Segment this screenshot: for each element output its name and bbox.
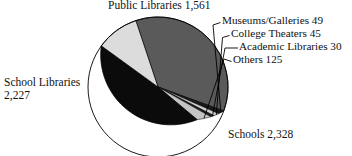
- pie-slices: [101, 17, 228, 125]
- pie-label-schools: Schools 2,328: [228, 128, 293, 141]
- pie-label-others: Others 125: [233, 53, 282, 66]
- pie-label-school-libraries-name: School Libraries: [4, 76, 99, 89]
- pie-label-college-theaters: College Theaters 45: [231, 27, 321, 40]
- pie-label-museums-galleries: Museums/Galleries 49: [222, 14, 323, 27]
- pie-label-public-libraries: Public Libraries 1,561: [108, 0, 211, 12]
- pie-label-academic-libraries: Academic Libraries 30: [239, 40, 342, 53]
- pie-label-school-libraries: School Libraries 2,227: [4, 76, 99, 102]
- pie-chart-figure: Public Libraries 1,561 School Libraries …: [0, 0, 352, 156]
- pie-label-school-libraries-value: 2,227: [4, 89, 99, 102]
